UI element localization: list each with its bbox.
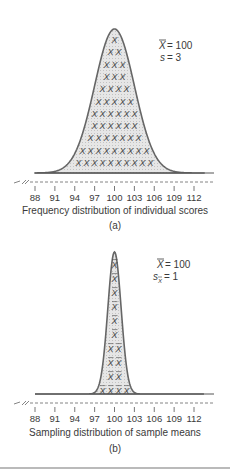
x-mark: X [82,158,90,168]
axis-break-b [14,401,29,405]
sd-label-a: = 3 [167,52,182,63]
x-mark: X [86,146,94,156]
x-mark: X [122,121,130,131]
tick-label: 112 [186,413,201,424]
xbar-mark: X [110,288,118,298]
x-mark: X [110,60,118,70]
caption-b: Sampling distribution of sample means [29,427,201,438]
tick-label: 112 [186,192,201,203]
x-mark: X [106,121,114,131]
x-mark: X [118,72,126,82]
tick-label: 97 [89,192,100,203]
panel-a: XXXXXXXXXXXXXXXXXXXXXXXXXXXXXXXXXXXXXXXX… [14,29,214,231]
x-mark: X [134,146,142,156]
tick-label: 88 [30,413,41,424]
x-mark: X [94,97,102,107]
x-mark: X [130,158,138,168]
x-mark: X [122,109,130,119]
x-mark: X [114,109,122,119]
x-mark: X [110,35,118,45]
x-mark: X [118,60,126,70]
mean-label-b: = 100 [165,259,191,270]
x-mark: X [130,121,138,131]
sd-symbol-a: s [160,52,165,63]
x-mark: X [118,146,126,156]
tick-label: 106 [146,413,162,424]
x-mark: X [102,60,110,70]
x-mark: X [98,109,106,119]
stats-a: X = 100 s = 3 [158,40,193,63]
x-mark: X [90,121,98,131]
x-mark: X [118,133,126,143]
x-mark: X [90,158,98,168]
x-mark: X [126,133,134,143]
x-mark: X [102,146,110,156]
x-mark: X [102,133,110,143]
x-mark: X [102,97,110,107]
tick-label: 100 [107,192,123,203]
tick-label: 91 [50,192,61,203]
x-ticks-a: 88919497100103106109112 [30,186,202,203]
mean-symbol-a: X [158,40,166,51]
x-mark: X [114,84,122,94]
x-mark: X [130,109,138,119]
tick-label: 109 [166,413,182,424]
x-mark: X [102,72,110,82]
sd-label-b: = 1 [164,271,179,282]
x-mark: X [74,158,82,168]
x-mark: X [110,72,118,82]
x-mark: X [86,133,94,143]
tick-label: 100 [107,413,123,424]
xbar-mark: X [110,316,118,326]
xbar-mark: X [114,344,122,354]
tick-label: 103 [126,413,142,424]
x-mark: X [98,121,106,131]
stats-b: X = 100 s X = 1 [153,259,191,284]
mean-symbol-b: X [156,259,164,270]
panel-label-a: (a) [109,220,121,231]
tick-label: 97 [89,413,100,424]
x-mark: X [94,133,102,143]
x-mark: X [134,133,142,143]
x-mark: X [138,158,146,168]
xbar-mark: X [106,344,114,354]
x-mark: X [94,146,102,156]
x-mark: X [110,133,118,143]
x-mark: X [98,84,106,94]
x-mark: X [118,97,126,107]
x-mark: X [106,109,114,119]
xbar-mark: X [110,260,118,270]
axis-break-a [14,180,29,184]
sd-subscript-b: X [157,278,163,284]
x-ticks-b: 88919497100103106109112 [30,407,202,424]
figure: XXXXXXXXXXXXXXXXXXXXXXXXXXXXXXXXXXXXXXXX… [0,0,230,473]
x-mark: X [114,158,122,168]
x-mark: X [110,97,118,107]
panel-label-b: (b) [109,443,121,454]
x-mark: X [122,84,130,94]
x-mark: X [90,109,98,119]
x-mark: X [106,47,114,57]
xbar-mark: X [114,358,122,368]
xbar-mark: X [110,302,118,312]
x-mark: X [78,146,86,156]
tick-label: 106 [146,192,162,203]
tick-label: 103 [126,192,142,203]
xbar-mark: X [110,330,118,340]
caption-a: Frequency distribution of individual sco… [22,205,208,216]
xbar-mark: X [110,274,118,284]
x-mark: X [106,84,114,94]
x-mark: X [122,158,130,168]
x-mark: X [126,146,134,156]
tick-label: 91 [50,413,61,424]
xbar-mark: X [106,358,114,368]
x-mark: X [110,146,118,156]
x-mark: X [146,158,154,168]
xbar-mark: X [106,372,114,382]
x-mark: X [98,158,106,168]
x-mark: X [114,121,122,131]
x-mark: X [114,47,122,57]
x-mark: X [142,146,150,156]
tick-label: 109 [166,192,182,203]
x-mark: X [126,97,134,107]
